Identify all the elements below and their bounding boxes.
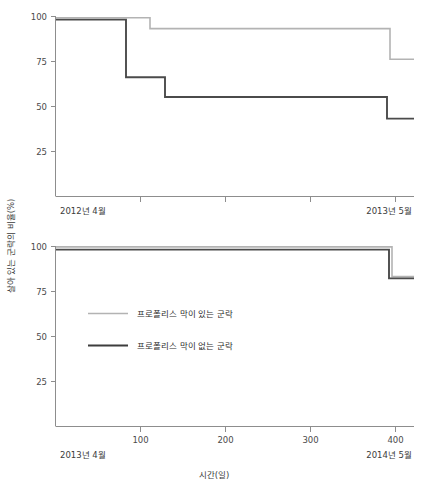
bottom-panel-end-date-label: 2014년 5월 <box>366 450 412 460</box>
top-panel-ytick-50: 50 <box>36 102 47 112</box>
bottom-panel-y-ticks <box>51 247 56 382</box>
bottom-panel-series-with-propolis <box>56 247 414 277</box>
top-panel-start-date-label: 2012년 4월 <box>60 206 106 216</box>
bottom-panel-x-ticks <box>141 427 396 433</box>
top-panel-ytick-100: 100 <box>31 12 47 22</box>
top-panel-end-date-label: 2013년 5월 <box>366 206 412 216</box>
bottom-panel-start-date-label: 2013년 4월 <box>60 450 106 460</box>
figure-container: 100 75 50 25 2012년 4월 2013년 5월 살아 있는 군락의… <box>0 0 427 491</box>
bottom-panel-series-without-propolis <box>56 250 414 279</box>
bottom-panel-ytick-75: 75 <box>36 287 47 297</box>
legend-label-without-propolis: 프로폴리스 막이 없는 군락 <box>137 341 233 351</box>
bottom-panel-xtick-100: 100 <box>132 435 148 445</box>
top-panel-chart: 100 75 50 25 2012년 4월 2013년 5월 <box>31 12 414 217</box>
top-panel-y-ticks <box>51 17 56 152</box>
bottom-panel-ytick-100: 100 <box>31 242 47 252</box>
bottom-panel-ytick-50: 50 <box>36 332 47 342</box>
bottom-panel-xtick-300: 300 <box>302 435 318 445</box>
bottom-panel-ytick-25: 25 <box>36 377 47 387</box>
y-axis-title: 살아 있는 군락의 비율(%) <box>6 199 16 294</box>
top-panel-x-ticks <box>141 197 396 203</box>
survival-curves-figure: 100 75 50 25 2012년 4월 2013년 5월 살아 있는 군락의… <box>0 0 427 491</box>
top-panel-series-with-propolis <box>56 18 414 59</box>
top-panel-series-without-propolis <box>56 20 414 119</box>
legend: 프로폴리스 막이 있는 군락 프로폴리스 막이 없는 군락 <box>88 309 233 351</box>
top-panel-ytick-25: 25 <box>36 147 47 157</box>
bottom-panel-xtick-200: 200 <box>217 435 233 445</box>
legend-label-with-propolis: 프로폴리스 막이 있는 군락 <box>137 309 233 319</box>
bottom-panel-xtick-400: 400 <box>387 435 403 445</box>
bottom-panel-chart: 100 75 50 25 100 200 300 400 2013년 4월 20… <box>31 242 414 481</box>
x-axis-title: 시간(일) <box>199 470 230 480</box>
top-panel-ytick-75: 75 <box>36 57 47 67</box>
